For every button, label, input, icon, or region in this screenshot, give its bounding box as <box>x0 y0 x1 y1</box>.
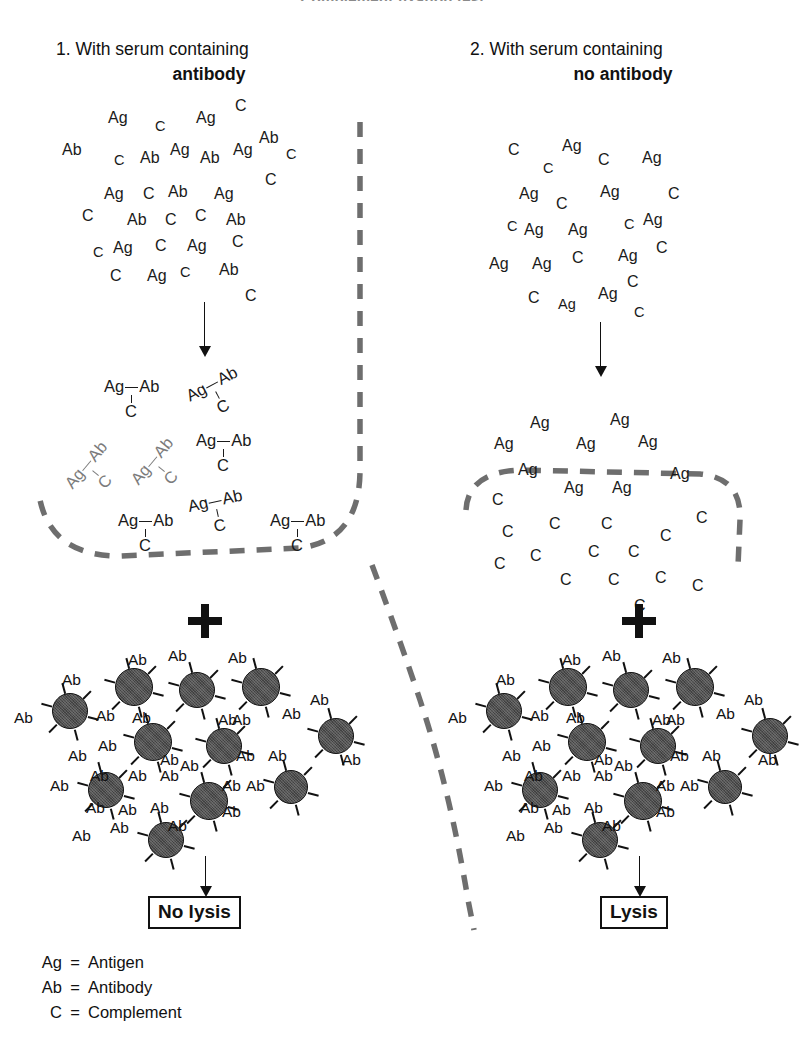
cell-surface-spike <box>622 662 626 673</box>
cell-antibody-label: Ab <box>530 708 549 723</box>
cell-antibody-label: Ab <box>118 802 137 817</box>
sensitized-red-blood-cell <box>274 770 308 804</box>
molecule-token-c: C <box>508 142 520 158</box>
figure-title: Complement fixation test <box>0 0 785 1</box>
cell-antibody-label: Ab <box>594 768 613 783</box>
molecule-token-ag: Ag <box>196 110 216 126</box>
cell-surface-spike <box>699 707 703 718</box>
cell-antibody-label: Ab <box>496 672 515 687</box>
cell-surface-spike <box>482 725 491 734</box>
complex-bond-horizontal <box>209 500 222 504</box>
cell-surface-spike <box>303 767 312 776</box>
molecule-token-ag: Ag <box>170 142 190 158</box>
cell-surface-spike <box>582 665 591 674</box>
molecule-token-ag: Ag <box>233 142 253 158</box>
cell-surface-spike <box>635 709 639 720</box>
cell-antibody-label: Ab <box>702 748 721 763</box>
legend-meaning: Antigen <box>88 953 144 971</box>
sensitized-red-blood-cell <box>179 672 215 708</box>
molecule-token-ag: Ag <box>564 480 584 496</box>
molecule-token-c: C <box>656 240 668 256</box>
molecule-token-ag: Ag <box>642 150 662 166</box>
cell-surface-spike <box>644 669 653 678</box>
cell-surface-spike <box>168 682 179 686</box>
cell-antibody-label: Ab <box>532 738 551 753</box>
cell-surface-spike <box>349 715 358 724</box>
sensitized-red-blood-cell <box>549 668 587 706</box>
molecule-token-ag: Ag <box>530 415 550 431</box>
molecule-token-ab: Ab <box>127 212 147 228</box>
cell-surface-spike <box>704 800 713 809</box>
column-2-plus-sign <box>622 604 656 638</box>
cell-antibody-label: Ab <box>614 758 633 773</box>
column-1-heading-text: With serum containing <box>75 39 248 59</box>
cell-surface-spike <box>729 805 733 816</box>
cell-surface-spike <box>275 665 284 674</box>
molecule-token-ag: Ag <box>612 480 632 496</box>
molecule-token-c: C <box>624 216 634 232</box>
molecule-token-ag: Ag <box>494 436 514 452</box>
column-2-number: 2. <box>470 39 485 59</box>
legend-row: C=Complement <box>28 1000 182 1025</box>
boundary-curve-divider <box>372 565 474 930</box>
cell-antibody-label: Ab <box>98 738 117 753</box>
molecule-token-c: C <box>530 548 542 564</box>
column-1-heading: 1. With serum containing antibody <box>56 38 356 85</box>
cell-surface-spike <box>609 704 618 713</box>
molecule-token-c: C <box>696 510 708 526</box>
complex-complement-label: C <box>217 457 251 474</box>
cell-antibody-label: Ab <box>506 828 525 843</box>
molecule-token-c: C <box>588 544 600 560</box>
molecule-token-c: C <box>556 196 568 212</box>
cell-surface-spike <box>327 708 331 719</box>
molecule-token-c: C <box>245 288 257 304</box>
molecule-token-c: C <box>143 186 155 202</box>
complex-complement-label: C <box>214 386 252 417</box>
cell-surface-spike <box>195 738 206 742</box>
cell-antibody-label: Ab <box>666 712 685 727</box>
cell-antibody-label: Ab <box>96 708 115 723</box>
molecule-token-c: C <box>494 556 506 572</box>
molecule-token-c: C <box>660 528 672 544</box>
cell-surface-spike <box>228 765 232 776</box>
complex-complement-label: C <box>291 537 325 554</box>
cell-surface-spike <box>558 795 569 799</box>
cell-surface-spike <box>295 805 299 816</box>
cell-surface-spike <box>602 682 613 686</box>
molecule-token-c: C <box>155 238 167 254</box>
complex-top-row: AgAb <box>196 432 251 449</box>
cell-surface-spike <box>77 782 88 786</box>
cell-antibody-label: Ab <box>670 748 689 763</box>
cell-antibody-label: Ab <box>132 710 151 725</box>
cell-surface-spike <box>188 662 192 673</box>
cell-surface-spike <box>517 690 526 699</box>
molecule-token-c: C <box>114 152 124 168</box>
cell-surface-spike <box>270 800 279 809</box>
molecule-token-c: C <box>601 516 613 532</box>
complex-top-row: AgAb <box>118 512 173 529</box>
molecule-token-ag: Ag <box>643 212 663 228</box>
cell-surface-spike <box>307 728 318 732</box>
molecule-token-c: C <box>528 290 540 306</box>
complex-bond-horizontal <box>139 521 152 522</box>
cell-surface-spike <box>511 782 522 786</box>
cell-surface-spike <box>153 692 164 696</box>
molecule-token-ag: Ag <box>147 268 167 284</box>
cell-surface-spike <box>629 738 640 742</box>
molecule-token-c: C <box>608 572 620 588</box>
molecule-token-ag: Ag <box>598 286 618 302</box>
molecule-token-c: C <box>692 578 704 594</box>
legend-symbol: Ab <box>28 975 62 1000</box>
cell-antibody-label: Ab <box>544 820 563 835</box>
cell-antibody-label: Ab <box>222 804 241 819</box>
antigen-antibody-complement-complex: AgAbC <box>196 432 251 474</box>
cell-surface-spike <box>618 845 629 849</box>
cell-antibody-label: Ab <box>744 692 763 707</box>
cell-surface-spike <box>252 658 256 669</box>
complex-bond-horizontal <box>82 460 91 471</box>
column-2-subject: no antibody <box>470 63 770 85</box>
cell-antibody-label: Ab <box>150 800 169 815</box>
cell-antibody-label: Ab <box>716 706 735 721</box>
cell-surface-spike <box>308 792 319 796</box>
molecule-token-ag: Ag <box>568 222 588 238</box>
